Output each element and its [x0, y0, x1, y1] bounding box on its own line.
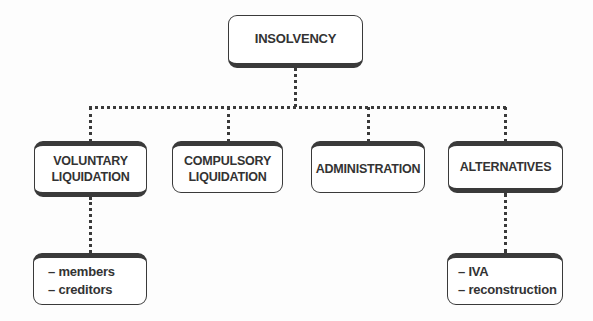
node-administration: ADMINISTRATION [311, 141, 425, 193]
node-administration-label: ADMINISTRATION [316, 161, 421, 177]
connector-alternatives-to-sub [504, 193, 507, 253]
node-compulsory-liquidation-label: COMPULSORY LIQUIDATION [184, 153, 271, 186]
node-alternatives-label: ALTERNATIVES [460, 159, 552, 175]
sub-item-iva: – IVA [458, 263, 557, 281]
connector-horizontal-bus [89, 106, 506, 109]
connector-voluntary-to-sub [89, 197, 92, 253]
connector-to-compulsory [227, 107, 230, 142]
connector-to-alternatives [504, 107, 507, 142]
node-voluntary-liquidation-label: VOLUNTARY LIQUIDATION [51, 153, 129, 186]
node-compulsory-liquidation: COMPULSORY LIQUIDATION [172, 141, 283, 193]
alternatives-sub-list: – IVA – reconstruction [458, 263, 557, 298]
node-alternatives: ALTERNATIVES [448, 141, 563, 193]
node-voluntary-sub-items: – members – creditors [33, 253, 147, 305]
node-insolvency: INSOLVENCY [228, 15, 363, 68]
node-insolvency-label: INSOLVENCY [255, 31, 337, 48]
sub-item-members: – members [48, 263, 115, 281]
sub-item-creditors: – creditors [48, 281, 115, 299]
connector-to-voluntary [89, 107, 92, 142]
connector-root-down [294, 68, 297, 107]
diagram-canvas: INSOLVENCY VOLUNTARY LIQUIDATION COMPULS… [0, 0, 593, 321]
node-voluntary-liquidation: VOLUNTARY LIQUIDATION [34, 141, 147, 197]
sub-item-reconstruction: – reconstruction [458, 281, 557, 299]
voluntary-sub-list: – members – creditors [48, 263, 115, 298]
node-alternatives-sub-items: – IVA – reconstruction [447, 253, 563, 305]
connector-to-administration [367, 107, 370, 142]
